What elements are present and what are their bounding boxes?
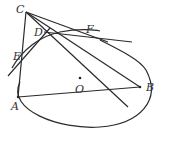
ellipse-curve [18,40,152,127]
label-a: A [10,100,19,113]
point-o [79,77,82,80]
label-d: D [33,26,43,39]
label-e: E [12,50,21,63]
line-cb [26,12,140,87]
geometry-diagram: C D F E A O B [0,0,192,142]
label-f: F [85,23,94,36]
point-b [139,86,142,89]
label-o: O [75,83,84,96]
label-c: C [16,3,25,16]
label-b: B [145,81,154,94]
point-a [17,96,19,98]
